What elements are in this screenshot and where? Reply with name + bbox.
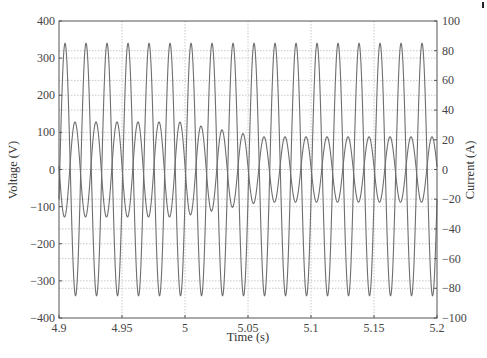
x-axis-label: Time (s) [227, 330, 269, 344]
y2-axis-ticks: 100806040200−20−40−60−80−100 [434, 14, 467, 325]
y-tick-label: 200 [37, 88, 55, 102]
y-tick-label: 400 [37, 14, 55, 28]
y2-tick-label: −80 [442, 281, 461, 295]
corner-mark [482, 2, 484, 8]
y-tick-label: 300 [37, 51, 55, 65]
y2-tick-label: 80 [442, 44, 454, 58]
x-tick-label: 5 [182, 321, 188, 335]
y2-axis-label: Current (A) [463, 141, 477, 200]
y-tick-label: −100 [30, 200, 55, 214]
y-tick-label: 0 [49, 163, 55, 177]
y2-tick-label: −40 [442, 222, 461, 236]
y2-tick-label: −60 [442, 252, 461, 266]
y2-tick-label: −100 [442, 311, 467, 325]
y2-tick-label: 60 [442, 73, 454, 87]
y2-tick-label: 100 [442, 14, 460, 28]
y2-tick-label: 0 [442, 163, 448, 177]
y-tick-label: −400 [30, 311, 55, 325]
y-tick-label: −300 [30, 274, 55, 288]
x-tick-label: 4.95 [112, 321, 133, 335]
x-tick-label: 5.15 [364, 321, 385, 335]
y2-tick-label: 20 [442, 133, 454, 147]
voltage-current-chart: 4.94.9555.055.15.155.2 4003002001000−100… [0, 0, 487, 358]
y2-tick-label: 40 [442, 103, 454, 117]
y-axis-ticks: 4003002001000−100−200−300−400 [30, 14, 62, 325]
x-tick-label: 5.1 [304, 321, 319, 335]
y2-tick-label: −20 [442, 192, 461, 206]
y-tick-label: 100 [37, 125, 55, 139]
y-tick-label: −200 [30, 237, 55, 251]
y-axis-label: Voltage (V) [6, 141, 20, 199]
